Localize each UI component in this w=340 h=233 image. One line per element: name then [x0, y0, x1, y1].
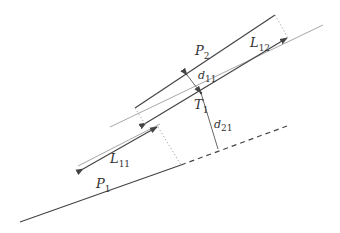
path-p2	[135, 15, 275, 108]
projection-p2-end	[275, 15, 288, 38]
label-l11: L11	[110, 152, 130, 169]
label-d21: d21	[214, 119, 233, 133]
projection-p1-end	[158, 127, 181, 165]
label-d11: d11	[198, 70, 217, 84]
label-p1: P1	[96, 177, 110, 194]
point-t1	[200, 92, 202, 94]
diagram-canvas: P2 L12 d11 T1 d21 L11 P1	[0, 0, 340, 233]
label-p2: P2	[195, 44, 209, 61]
projection-p2-start	[135, 108, 145, 124]
reference-line-upper	[110, 25, 323, 127]
label-t1: T1	[194, 98, 208, 115]
diagram-lines	[0, 0, 340, 233]
label-l12: L12	[250, 36, 270, 53]
path-p1-extension	[181, 126, 287, 165]
